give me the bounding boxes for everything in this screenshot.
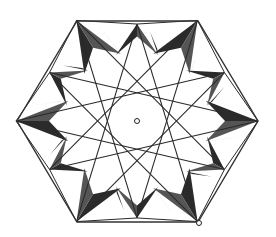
shade-triangle [116,24,137,55]
vertex-point-icon [197,221,202,226]
center-point-icon [135,119,140,124]
dodecagon-edge [198,169,225,221]
star-hexagon-diagram [0,0,276,237]
shade-triangle [116,187,137,218]
dodecagon-edge [77,218,138,222]
shade-triangle [137,187,158,218]
shade-triangle [137,24,158,55]
dodecagon-edge [137,218,198,222]
